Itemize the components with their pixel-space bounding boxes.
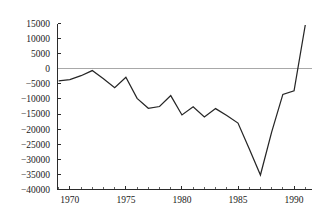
y-tick-label: −10000 [21,94,50,104]
x-tick-label: 1980 [172,195,191,205]
x-axis-tick-labels: 19701975198019851990 [60,195,303,205]
y-axis-tick-labels: 150001000050000−5000−10000−15000−20000−2… [21,19,50,195]
x-tick-label: 1970 [60,195,79,205]
x-tick-label: 1990 [285,195,304,205]
y-tick-label: −5000 [26,79,51,89]
x-tick-label: 1985 [229,195,248,205]
x-axis-tick-marks [59,186,306,190]
x-tick-label: 1975 [116,195,135,205]
y-tick-label: −25000 [21,140,50,150]
chart-canvas: 150001000050000−5000−10000−15000−20000−2… [0,0,321,222]
data-series-line [59,25,306,175]
y-tick-label: 15000 [26,19,50,29]
line-chart: 150001000050000−5000−10000−15000−20000−2… [0,0,321,222]
y-tick-label: −20000 [21,125,50,135]
y-tick-label: 5000 [31,49,50,59]
y-tick-label: 10000 [26,34,50,44]
y-tick-label: −40000 [21,185,50,195]
y-tick-label: −15000 [21,109,50,119]
y-tick-label: −30000 [21,155,50,165]
y-tick-label: 0 [45,64,50,74]
y-tick-label: −35000 [21,170,50,180]
